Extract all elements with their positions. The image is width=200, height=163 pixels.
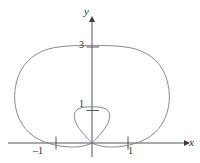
y-axis-arrowhead-icon xyxy=(89,16,95,22)
y-tick-label-3: 3 xyxy=(79,40,84,50)
x-tick-label-minus-1: –1 xyxy=(33,146,43,156)
x-tick-label-1: 1 xyxy=(128,146,133,156)
y-axis-label: y xyxy=(84,6,89,17)
x-axis-label: x xyxy=(189,137,194,148)
plot-canvas xyxy=(0,0,200,163)
polar-curve-figure: y x 3 1 1 –1 xyxy=(0,0,200,163)
y-axis xyxy=(87,16,100,157)
y-tick-label-1: 1 xyxy=(79,99,84,109)
